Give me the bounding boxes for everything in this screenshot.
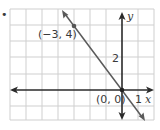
y-tick-label: 2 (112, 52, 119, 65)
coordinate-plane: • (−3, 4) (0, 0) (0, 0, 160, 130)
origin-label: (0, 0) (96, 93, 126, 106)
x-axis-label: x (145, 93, 152, 106)
x-tick-label: 1 (135, 93, 142, 106)
y-axis-label: y (126, 10, 134, 23)
x-axis (10, 87, 154, 94)
point-origin (120, 88, 125, 93)
point-a-label: (−3, 4) (38, 28, 77, 41)
bullet-marker: • (1, 8, 8, 21)
